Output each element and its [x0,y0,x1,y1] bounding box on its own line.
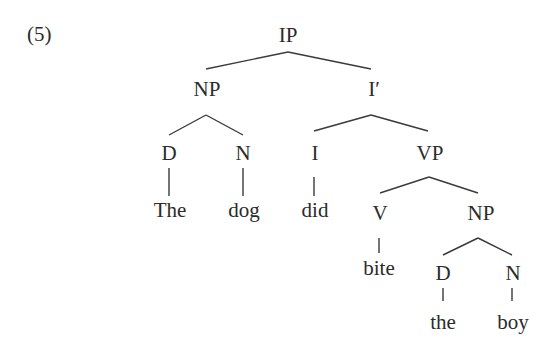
word-dog: dog [228,198,260,222]
node-ip: IP [279,23,298,47]
edge-np-n [206,115,243,135]
word-did: did [302,198,329,222]
node-np-object: NP [468,201,495,225]
edge-ip-ibar [288,52,371,69]
edge-ip-np [206,52,288,69]
word-boy: boy [497,310,529,334]
node-v: V [372,201,387,225]
edge-np2-n [478,238,512,255]
node-i: I [312,141,319,165]
node-n-subject: N [235,141,250,165]
word-bite: bite [363,256,395,280]
node-np-subject: NP [194,77,221,101]
edge-np-d [169,115,206,135]
example-number: (5) [27,22,52,46]
node-vp: VP [417,141,444,165]
edge-ibar-vp [371,115,428,131]
edge-vp-np [429,177,478,193]
tree-edges [169,52,512,301]
node-d-object: D [435,261,450,285]
word-the-object: the [430,310,456,334]
syntax-tree: (5) IP NP I′ D N I VP V NP D N The d [0,0,552,344]
edge-ibar-i [314,115,371,131]
node-d-subject: D [161,141,176,165]
edge-vp-v [380,177,429,193]
word-the: The [154,198,187,222]
node-n-object: N [505,261,520,285]
node-i-bar: I′ [368,77,380,101]
edge-np2-d [443,238,478,255]
